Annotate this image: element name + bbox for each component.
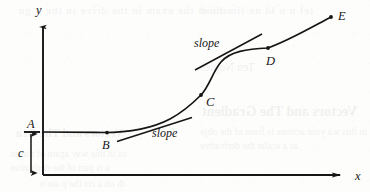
curve-point-dots bbox=[105, 15, 333, 134]
point-dot-b bbox=[105, 131, 109, 135]
point-label-b: B bbox=[102, 139, 110, 152]
axes-group bbox=[43, 27, 340, 175]
point-label-d: D bbox=[266, 55, 275, 68]
x-axis-label: x bbox=[355, 170, 361, 183]
point-dot-e bbox=[329, 15, 333, 19]
point-dot-d bbox=[266, 46, 270, 50]
sigmoid-curve bbox=[43, 17, 331, 133]
offset-label-c: c bbox=[18, 147, 24, 160]
slope-label-lower: slope bbox=[152, 127, 177, 139]
point-label-e: E bbox=[338, 10, 346, 23]
tangent-lines-group bbox=[117, 34, 262, 142]
y-axis-label: y bbox=[36, 4, 42, 17]
point-label-a: A bbox=[27, 118, 35, 131]
slope-label-upper: slope bbox=[194, 37, 219, 49]
figure-page: shi ot the exam in the drive in the b gu… bbox=[0, 0, 370, 192]
point-dot-c bbox=[199, 93, 203, 97]
point-label-c: C bbox=[206, 96, 214, 109]
curve-diagram-canvas bbox=[0, 0, 370, 192]
